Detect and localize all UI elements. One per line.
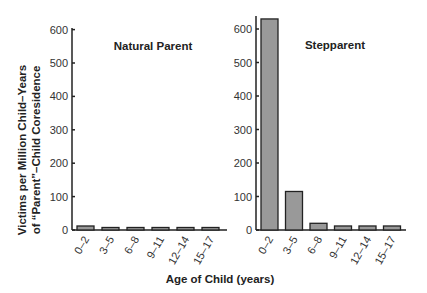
y-tick-label: 600 (50, 24, 68, 36)
y-tick-label: 200 (234, 157, 252, 169)
panel-title: Stepparent (305, 39, 365, 51)
bar-12–14 (177, 228, 194, 231)
y-tick-label: 300 (50, 124, 68, 136)
y-axis-title-line2: of “Parent”–Child Coresidence (30, 66, 42, 235)
x-tick-label: 15–17 (372, 234, 398, 266)
bar-12–14 (359, 226, 376, 230)
y-tick-label: 200 (50, 157, 68, 169)
x-tick-label: 6–8 (122, 234, 142, 256)
x-tick-label: 9–11 (327, 234, 349, 260)
y-tick-label: 0 (62, 224, 68, 236)
x-tick-label: 3–5 (97, 234, 117, 256)
x-tick-label: 15–17 (191, 234, 217, 266)
chart-figure: Victims per Million Child–Years of “Pare… (0, 0, 427, 293)
natural-parent-panel: 01002003004005006000–23–56–89–1112–1415–… (50, 24, 227, 267)
x-tick-label: 12–14 (348, 234, 374, 266)
x-tick-label: 3–5 (280, 234, 300, 256)
y-tick-label: 100 (234, 191, 252, 203)
x-tick-label: 0–2 (72, 234, 92, 256)
y-tick-label: 500 (234, 57, 252, 69)
x-tick-label: 9–11 (144, 234, 166, 260)
bar-15–17 (202, 228, 219, 231)
y-axis-title-line1: Victims per Million Child–Years (16, 65, 28, 235)
y-tick-label: 100 (50, 191, 68, 203)
y-tick-label: 600 (234, 23, 252, 35)
bar-6–8 (310, 223, 327, 230)
x-axis-title: Age of Child (years) (166, 273, 275, 285)
x-tick-label: 6–8 (305, 234, 325, 256)
y-tick-label: 400 (50, 90, 68, 102)
bar-15–17 (384, 226, 401, 230)
bar-3–5 (286, 191, 303, 230)
y-tick-label: 0 (246, 224, 252, 236)
y-tick-label: 400 (234, 90, 252, 102)
bar-3–5 (102, 228, 119, 231)
y-axis-title: Victims per Million Child–Years of “Pare… (16, 65, 42, 235)
bar-9–11 (152, 228, 169, 231)
y-tick-label: 300 (234, 124, 252, 136)
bar-0–2 (261, 19, 278, 230)
y-tick-label: 500 (50, 57, 68, 69)
x-tick-label: 12–14 (166, 234, 192, 266)
bar-0–2 (77, 226, 94, 230)
bar-9–11 (335, 226, 352, 230)
stepparent-panel: 01002003004005006000–23–56–89–1112–1415–… (234, 16, 406, 266)
x-tick-label: 0–2 (256, 234, 276, 256)
panel-title: Natural Parent (114, 40, 193, 52)
bar-6–8 (127, 228, 144, 231)
